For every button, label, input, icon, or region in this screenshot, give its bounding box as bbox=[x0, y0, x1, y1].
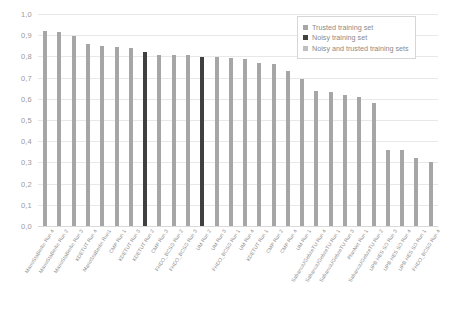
y-axis-tick-label: 0,8 bbox=[21, 52, 32, 61]
bar[interactable] bbox=[300, 79, 304, 226]
bar[interactable] bbox=[215, 57, 219, 226]
legend-item[interactable]: Noisy training set bbox=[303, 33, 409, 42]
y-axis-tick-label: 0,0 bbox=[21, 222, 32, 231]
bar[interactable] bbox=[229, 58, 233, 226]
legend-swatch-icon bbox=[303, 35, 308, 40]
bar[interactable] bbox=[272, 64, 276, 226]
legend-swatch-icon bbox=[303, 46, 308, 51]
bar-slot bbox=[424, 14, 438, 226]
y-axis-tick-label: 0,7 bbox=[21, 73, 32, 82]
bar-slot bbox=[152, 14, 166, 226]
bar[interactable] bbox=[100, 46, 104, 226]
bar-slot bbox=[95, 14, 109, 226]
bar-slot bbox=[267, 14, 281, 226]
bar-slot bbox=[124, 14, 138, 226]
bar-slot bbox=[238, 14, 252, 226]
bar-slot bbox=[224, 14, 238, 226]
bar[interactable] bbox=[429, 162, 433, 226]
bar-slot bbox=[281, 14, 295, 226]
bar[interactable] bbox=[129, 48, 133, 226]
bar[interactable] bbox=[200, 57, 204, 226]
bar[interactable] bbox=[286, 71, 290, 226]
y-axis-tick-label: 0,2 bbox=[21, 179, 32, 188]
bar[interactable] bbox=[343, 95, 347, 226]
bar-slot bbox=[252, 14, 266, 226]
bar[interactable] bbox=[172, 55, 176, 226]
bar[interactable] bbox=[115, 47, 119, 226]
bar-slot bbox=[109, 14, 123, 226]
bar[interactable] bbox=[257, 63, 261, 226]
bar-slot bbox=[67, 14, 81, 226]
bar[interactable] bbox=[86, 44, 90, 226]
bar[interactable] bbox=[143, 52, 147, 226]
y-axis-tick-label: 1,0 bbox=[21, 10, 32, 19]
legend-swatch-icon bbox=[303, 25, 308, 30]
bar[interactable] bbox=[186, 55, 190, 226]
x-axis-labels: MarioStaBerlin Run 4MarioStaBerlin Run 2… bbox=[38, 228, 438, 311]
bar[interactable] bbox=[386, 150, 390, 226]
legend-label: Noisy training set bbox=[312, 33, 367, 42]
y-axis-tick-label: 0,4 bbox=[21, 137, 32, 146]
bar[interactable] bbox=[43, 31, 47, 226]
y-axis-tick-label: 0,9 bbox=[21, 31, 32, 40]
bar[interactable] bbox=[329, 92, 333, 226]
legend-label: Noisy and trusted training sets bbox=[312, 44, 409, 53]
bar[interactable] bbox=[414, 158, 418, 226]
y-axis-tick-label: 0,5 bbox=[21, 116, 32, 125]
bar[interactable] bbox=[243, 59, 247, 226]
y-axis-tick-label: 0,3 bbox=[21, 158, 32, 167]
bar-slot bbox=[195, 14, 209, 226]
bar-chart: 1,00,90,80,70,60,50,40,30,20,10,0 MarioS… bbox=[0, 0, 450, 311]
bar[interactable] bbox=[57, 32, 61, 226]
bar[interactable] bbox=[357, 97, 361, 226]
bar[interactable] bbox=[314, 91, 318, 226]
y-axis-ticks: 1,00,90,80,70,60,50,40,30,20,10,0 bbox=[0, 14, 36, 226]
bar[interactable] bbox=[72, 36, 76, 226]
bar[interactable] bbox=[400, 150, 404, 226]
bar-slot bbox=[138, 14, 152, 226]
gridline bbox=[38, 226, 438, 227]
bar[interactable] bbox=[157, 55, 161, 226]
bar-slot bbox=[38, 14, 52, 226]
bar-slot bbox=[81, 14, 95, 226]
legend-item[interactable]: Trusted training set bbox=[303, 23, 409, 32]
bar[interactable] bbox=[372, 103, 376, 226]
legend-label: Trusted training set bbox=[312, 23, 373, 32]
y-axis-tick-label: 0,1 bbox=[21, 200, 32, 209]
bar-slot bbox=[181, 14, 195, 226]
y-axis-tick-label: 0,6 bbox=[21, 94, 32, 103]
bar-slot bbox=[209, 14, 223, 226]
chart-legend: Trusted training setNoisy training setNo… bbox=[297, 16, 416, 59]
bar-slot bbox=[167, 14, 181, 226]
bar-slot bbox=[52, 14, 66, 226]
legend-item[interactable]: Noisy and trusted training sets bbox=[303, 44, 409, 53]
